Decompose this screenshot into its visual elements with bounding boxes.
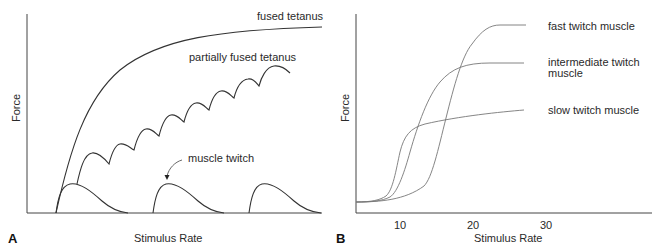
arrowhead-icon	[165, 175, 170, 180]
intermediate-twitch-curve	[356, 63, 524, 202]
panel-a: fused tetanus partially fused tetanus mu…	[8, 10, 324, 246]
twitch-curve-2	[153, 184, 224, 213]
panel-b-letter: B	[336, 231, 345, 246]
fused-tetanus-label: fused tetanus	[257, 10, 324, 22]
slow-twitch-curve	[356, 110, 524, 202]
intermediate-twitch-label-line2: muscle	[548, 67, 583, 79]
slow-twitch-label: slow twitch muscle	[548, 104, 639, 116]
muscle-twitch-label: muscle twitch	[188, 152, 254, 164]
partially-fused-tetanus-curve	[77, 66, 290, 184]
panel-b-y-label: Force	[339, 94, 351, 122]
muscle-twitch-arrow	[167, 160, 182, 176]
panel-a-letter: A	[8, 231, 18, 246]
panel-a-x-label: Stimulus Rate	[134, 232, 202, 244]
figure-canvas: fused tetanus partially fused tetanus mu…	[0, 0, 664, 252]
panel-a-y-label: Force	[10, 94, 22, 122]
fast-twitch-curve	[356, 25, 526, 202]
fast-twitch-label: fast twitch muscle	[548, 20, 635, 32]
panel-b-x-label: Stimulus Rate	[474, 232, 542, 244]
panel-b: 10 20 30 fast twitch muscle intermediate…	[336, 14, 652, 246]
twitch-curve-3	[249, 184, 321, 213]
partially-fused-tetanus-label: partially fused tetanus	[189, 51, 297, 63]
x-tick-30: 30	[540, 219, 552, 231]
twitch-curve-1	[56, 184, 128, 213]
x-tick-10: 10	[394, 219, 406, 231]
x-tick-20: 20	[467, 219, 479, 231]
